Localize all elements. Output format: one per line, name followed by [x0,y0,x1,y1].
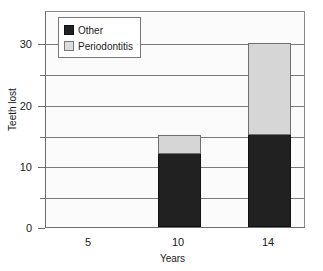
dark-swatch-icon [64,25,74,35]
bar-segment-other-10[interactable] [158,153,201,227]
x-tick-label-14: 14 [248,236,288,248]
bar-segment-periodontitis-10[interactable] [158,135,201,154]
bar-segment-other-14[interactable] [248,134,291,227]
y-tick-mark-10 [38,167,45,168]
legend-item-other[interactable]: Other [64,22,136,38]
bar-group-10[interactable] [158,135,201,227]
legend-label-other: Other [78,25,103,36]
y-tick-label-20: 20 [6,101,32,112]
y-tick-mark-20 [38,106,45,107]
x-tick-label-10: 10 [158,236,198,248]
y-tick-label-30: 30 [6,39,32,50]
legend-item-periodontitis[interactable]: Periodontitis [64,38,136,54]
y-tick-label-10: 10 [6,162,32,173]
light-swatch-icon [64,41,74,51]
bar-segment-periodontitis-14[interactable] [248,43,291,135]
x-axis-title: Years [0,253,323,264]
stacked-bar-chart: Teeth lost 0 10 20 30 [0,0,323,271]
y-tick-mark-30 [38,44,45,45]
y-tick-label-0: 0 [6,223,32,234]
x-tick-label-5: 5 [68,236,108,248]
bar-group-14[interactable] [248,43,291,227]
legend-label-periodontitis: Periodontitis [78,41,133,52]
legend: Other Periodontitis [58,17,141,58]
y-tick-mark-0 [38,228,45,229]
